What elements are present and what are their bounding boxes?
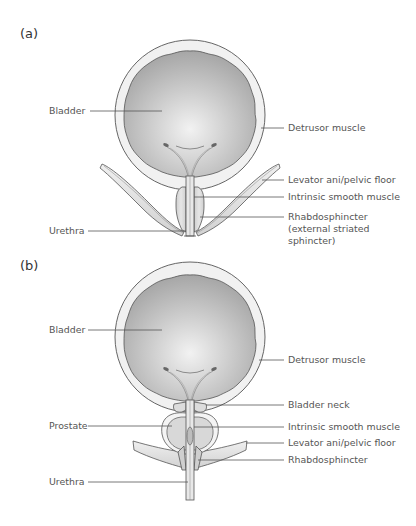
sphincter-left-a (176, 187, 186, 232)
panel-a-label: (a) (20, 26, 38, 41)
label-detrusor-a: Detrusor muscle (288, 122, 365, 134)
bladder-lumen-a (124, 51, 256, 177)
panel-a-artwork (100, 40, 280, 236)
bladder-neck-left (173, 402, 186, 412)
label-prostate-b: Prostate (49, 420, 88, 432)
label-intrinsic-a: Intrinsic smooth muscle (288, 191, 400, 203)
label-levator-b: Levator ani/pelvic floor (288, 437, 396, 449)
label-rhabdo-a: Rhabdosphincter (external striated sphin… (288, 211, 369, 247)
label-urethra-b: Urethra (49, 476, 85, 488)
label-bladder-neck-b: Bladder neck (288, 399, 350, 411)
label-bladder-b: Bladder (49, 324, 85, 336)
sphincter-right-a (194, 187, 204, 232)
label-bladder-a: Bladder (49, 105, 85, 117)
bladder-lumen-b (124, 275, 256, 401)
label-detrusor-b: Detrusor muscle (288, 354, 365, 366)
label-rhabdo-b: Rhabdosphincter (288, 454, 368, 466)
panel-b-artwork (115, 262, 265, 500)
label-intrinsic-b: Intrinsic smooth muscle (288, 421, 400, 433)
label-levator-a: Levator ani/pelvic floor (288, 174, 396, 186)
label-urethra-a: Urethra (49, 225, 85, 237)
bladder-neck-right (194, 402, 207, 412)
panel-b-label: (b) (20, 258, 38, 273)
